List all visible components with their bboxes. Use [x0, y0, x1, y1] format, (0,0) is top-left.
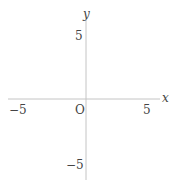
- x-axis-label: x: [162, 91, 169, 105]
- y-tick-neg5: −5: [66, 158, 84, 172]
- x-tick-pos5: 5: [143, 103, 151, 117]
- coordinate-plane: y x 5 −5 −5 O 5: [0, 0, 180, 188]
- y-tick-pos5: 5: [75, 29, 83, 43]
- x-tick-neg5: −5: [9, 103, 27, 117]
- y-axis-label: y: [82, 7, 90, 21]
- origin-label: O: [75, 103, 85, 117]
